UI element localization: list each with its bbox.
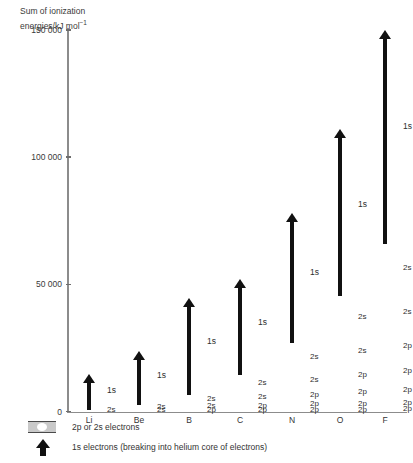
one-s-arrow-Be[interactable] [124, 351, 154, 405]
orbital-label-O-2: 2p [358, 388, 367, 396]
white-arrow-dot-icon [37, 423, 47, 431]
element-group-B[interactable]: B [174, 411, 204, 412]
one-s-label-Be: 1s [157, 370, 166, 380]
y-tick-label-100000: 100 000 [4, 152, 62, 162]
element-group-C[interactable]: C [225, 411, 255, 412]
orbital-label-F-6: 2s [403, 264, 411, 272]
y-axis-line [67, 28, 69, 413]
element-group-Li[interactable]: Li [74, 411, 104, 412]
one-s-label-O: 1s [358, 199, 367, 209]
y-tick-150000 [66, 29, 71, 31]
element-group-F[interactable]: F [370, 411, 400, 412]
orbital-label-F-5: 2s [403, 308, 411, 316]
element-group-N[interactable]: N [277, 411, 307, 412]
arrow-shaft [187, 306, 191, 395]
orbital-label-B-2: 2s [207, 395, 215, 403]
y-axis-title-exponent: −1 [80, 19, 87, 26]
orbital-label-B-1: 2s [207, 402, 215, 410]
one-s-arrow-F[interactable] [370, 30, 400, 244]
one-s-label-N: 1s [310, 267, 319, 277]
arrow-shaft [338, 137, 342, 296]
chart-legend: 2p or 2s electrons 1s electrons (breakin… [28, 419, 408, 459]
one-s-label-F: 1s [403, 121, 412, 131]
orbital-label-N-1: 2p [310, 400, 319, 408]
orbital-label-N-2: 2p [310, 391, 319, 399]
arrow-shaft [383, 38, 387, 244]
orbital-label-F-1: 2p [403, 399, 412, 407]
legend-label-shell: 2p or 2s electrons [72, 422, 140, 432]
arrow-shaft [238, 287, 242, 374]
one-s-arrow-O[interactable] [325, 129, 355, 296]
ionization-energy-chart: Sum of ionization energies/kJ mol−1 050 … [0, 0, 413, 463]
one-s-arrow-B[interactable] [174, 298, 204, 395]
arrow-shaft [87, 382, 91, 411]
legend-label-core: 1s electrons (breaking into helium core … [72, 442, 267, 452]
arrow-shaft [137, 359, 141, 405]
y-tick-label-150000: 150 000 [4, 25, 62, 35]
orbital-label-F-3: 2p [403, 367, 412, 375]
orbital-label-O-5: 2s [358, 313, 366, 321]
y-tick-0 [66, 411, 71, 413]
orbital-label-O-4: 2s [358, 347, 366, 355]
shell-swatch-icon [28, 421, 56, 433]
arrow-shaft [40, 446, 46, 456]
element-group-O[interactable]: O [325, 411, 355, 412]
orbital-label-O-3: 2p [358, 371, 367, 379]
orbital-label-F-4: 2p [403, 342, 412, 350]
x-axis-line [67, 412, 407, 414]
element-group-Be[interactable]: Be [124, 411, 154, 412]
orbital-label-O-1: 2p [358, 400, 367, 408]
one-s-arrow-C[interactable] [225, 279, 255, 374]
orbital-label-C-1: 2p [258, 402, 267, 410]
orbital-label-Be-1: 2s [157, 403, 165, 411]
orbital-label-F-2: 2p [403, 386, 412, 394]
y-tick-100000 [66, 156, 71, 158]
orbital-label-C-2: 2s [258, 393, 266, 401]
one-s-arrow-N[interactable] [277, 213, 307, 343]
y-tick-label-50000: 50 000 [4, 279, 62, 289]
y-axis-title-line1: Sum of ionization [20, 6, 85, 16]
one-s-label-B: 1s [207, 336, 216, 346]
orbital-label-N-4: 2s [310, 353, 318, 361]
y-tick-label-0: 0 [4, 407, 62, 417]
orbital-label-N-3: 2s [310, 376, 318, 384]
legend-item-core: 1s electrons (breaking into helium core … [28, 439, 408, 459]
arrow-shaft [290, 221, 294, 343]
one-s-arrow-Li[interactable] [74, 374, 104, 411]
one-s-label-C: 1s [258, 317, 267, 327]
one-s-label-Li: 1s [107, 385, 116, 395]
y-tick-50000 [66, 284, 71, 286]
black-up-arrow-icon [36, 439, 50, 456]
orbital-label-Li-0: 2s [107, 406, 115, 414]
legend-item-shell: 2p or 2s electrons [28, 419, 408, 439]
orbital-label-C-3: 2s [258, 379, 266, 387]
